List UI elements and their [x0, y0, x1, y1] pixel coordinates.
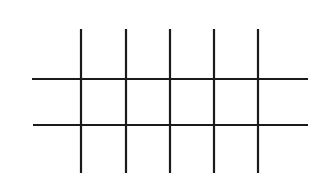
- vertical-lines: [81, 29, 258, 173]
- grid-diagram: [0, 0, 331, 195]
